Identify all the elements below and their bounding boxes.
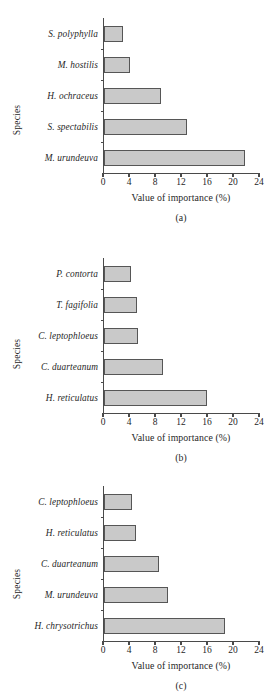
x-axis-tick-label: 24 [254, 177, 264, 187]
x-axis-tick-label: 16 [202, 645, 212, 655]
bar-row: H. reticulatus [104, 382, 259, 413]
bar-row: C. duarteanum [104, 351, 259, 382]
x-axis-tick-label: 0 [101, 417, 106, 427]
bar-row: M. hostilis [104, 49, 259, 80]
category-label: M. hostilis [58, 60, 98, 70]
category-label: H. reticulatus [46, 393, 98, 403]
bar [104, 494, 132, 510]
bar [104, 150, 245, 166]
x-axis-tick-label: 8 [153, 417, 158, 427]
bar-row: C. duarteanum [104, 548, 259, 579]
bar-row: S. polyphylla [104, 18, 259, 49]
bar [104, 88, 161, 104]
bar-row: S. spectabilis [104, 111, 259, 142]
x-axis-tick-label: 12 [176, 417, 186, 427]
y-axis-tick [101, 111, 105, 112]
category-label: C. duarteanum [41, 362, 98, 372]
bar-row: P. contorta [104, 258, 259, 289]
x-axis-tick-label: 16 [202, 417, 212, 427]
bar [104, 328, 138, 344]
x-axis-title-c: Value of importance (%) [103, 660, 259, 671]
category-label: C. leptophloeus [38, 497, 98, 507]
x-axis-tick-label: 24 [254, 645, 264, 655]
bar [104, 119, 187, 135]
x-axis-tick-label: 24 [254, 417, 264, 427]
bars-container-a: S. polyphyllaM. hostilisH. ochraceusS. s… [103, 18, 259, 173]
x-axis-line-b [103, 413, 259, 414]
x-axis-tick-label: 4 [127, 417, 132, 427]
bar-row: M. urundeuva [104, 579, 259, 610]
chart-panel-b: Species P. contortaT. fagifoliaC. leptop… [0, 240, 271, 468]
x-axis-line-c [103, 641, 259, 642]
y-axis-tick [101, 579, 105, 580]
bar-row: C. leptophloeus [104, 486, 259, 517]
bar [104, 618, 225, 634]
chart-panel-c: Species C. leptophloeusH. reticulatusC. … [0, 468, 271, 700]
x-axis-tick-label: 20 [228, 645, 238, 655]
figure-three-bar-charts: Species S. polyphyllaM. hostilisH. ochra… [0, 0, 271, 700]
bar [104, 26, 123, 42]
x-axis-tick-label: 20 [228, 177, 238, 187]
y-axis-title: Species [12, 105, 22, 135]
category-label: S. polyphylla [48, 29, 98, 39]
category-label: M. urundeuva [45, 590, 98, 600]
category-label: H. reticulatus [46, 528, 98, 538]
bar [104, 57, 130, 73]
category-label: C. duarteanum [41, 559, 98, 569]
bar-row: H. ochraceus [104, 80, 259, 111]
x-axis-title-b: Value of importance (%) [103, 432, 259, 443]
y-axis-title: Species [12, 339, 22, 369]
category-label: P. contorta [56, 269, 98, 279]
bar [104, 359, 163, 375]
bars-container-b: P. contortaT. fagifoliaC. leptophloeusC.… [103, 258, 259, 413]
x-axis-tick-label: 0 [101, 645, 106, 655]
x-axis-tick-label: 0 [101, 177, 106, 187]
x-axis-title-a: Value of importance (%) [103, 192, 259, 203]
bar-row: H. reticulatus [104, 517, 259, 548]
category-label: C. leptophloeus [38, 331, 98, 341]
x-axis-tick-label: 16 [202, 177, 212, 187]
bar [104, 556, 159, 572]
y-axis-tick [101, 351, 105, 352]
y-axis-tick [101, 142, 105, 143]
y-axis-tick [101, 320, 105, 321]
bars-container-c: C. leptophloeusH. reticulatusC. duartean… [103, 486, 259, 641]
x-axis-tick-label: 4 [127, 177, 132, 187]
y-axis-tick [101, 289, 105, 290]
x-axis-tick-labels-b: 04812162024 [103, 417, 259, 431]
x-axis-tick-labels-c: 04812162024 [103, 645, 259, 659]
y-axis-title: Species [12, 569, 22, 599]
x-axis-line-a [103, 173, 259, 174]
category-label: H. chrysotrichus [34, 621, 98, 631]
y-axis-tick [101, 49, 105, 50]
bar [104, 266, 131, 282]
category-label: H. ochraceus [47, 91, 98, 101]
x-axis-tick-label: 12 [176, 177, 186, 187]
bar [104, 297, 137, 313]
x-axis-tick-label: 12 [176, 645, 186, 655]
plot-area-c: C. leptophloeusH. reticulatusC. duartean… [103, 486, 259, 691]
category-label: T. fagifolia [56, 300, 98, 310]
panel-caption-b: (b) [103, 452, 259, 463]
x-axis-tick-label: 20 [228, 417, 238, 427]
bar-row: M. urundeuva [104, 142, 259, 173]
panel-caption-c: (c) [103, 680, 259, 691]
x-axis-tick-label: 4 [127, 645, 132, 655]
x-axis-tick-label: 8 [153, 645, 158, 655]
category-label: M. urundeuva [45, 153, 98, 163]
category-label: S. spectabilis [48, 122, 98, 132]
panel-caption-a: (a) [103, 212, 259, 223]
bar-row: T. fagifolia [104, 289, 259, 320]
y-axis-tick [101, 80, 105, 81]
bar [104, 390, 207, 406]
x-axis-tick-label: 8 [153, 177, 158, 187]
y-axis-tick [101, 517, 105, 518]
bar-row: C. leptophloeus [104, 320, 259, 351]
bar [104, 587, 168, 603]
y-axis-tick [101, 382, 105, 383]
plot-area-b: P. contortaT. fagifoliaC. leptophloeusC.… [103, 258, 259, 463]
x-axis-tick-labels-a: 04812162024 [103, 177, 259, 191]
y-axis-tick [101, 610, 105, 611]
bar [104, 525, 136, 541]
plot-area-a: S. polyphyllaM. hostilisH. ochraceusS. s… [103, 18, 259, 223]
